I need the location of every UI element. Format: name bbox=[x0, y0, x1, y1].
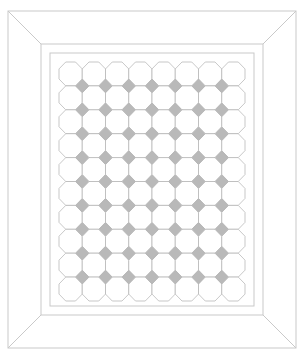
octagon-tile bbox=[175, 134, 198, 158]
octagon-tile bbox=[59, 229, 82, 253]
octagon-tile bbox=[82, 229, 105, 253]
octagon-tile bbox=[175, 229, 198, 253]
octagon-tile bbox=[82, 277, 105, 301]
octagon-tile bbox=[175, 205, 198, 229]
octagon-tile bbox=[59, 134, 82, 158]
octagon-tile bbox=[222, 110, 245, 134]
octagon-tile bbox=[82, 253, 105, 277]
octagon-tile bbox=[199, 253, 222, 277]
octagon-tile bbox=[106, 182, 129, 206]
octagon-tile bbox=[152, 62, 175, 86]
octagon-tile bbox=[59, 205, 82, 229]
octagon-tile bbox=[222, 205, 245, 229]
octagon-tile bbox=[222, 229, 245, 253]
octagon-tile bbox=[175, 110, 198, 134]
octagon-tile bbox=[199, 182, 222, 206]
octagon-tile bbox=[199, 229, 222, 253]
octagon-tile bbox=[59, 62, 82, 86]
octagon-tile bbox=[152, 205, 175, 229]
octagon-tile bbox=[129, 182, 152, 206]
octagon-tile bbox=[199, 86, 222, 110]
octagon-tile bbox=[152, 182, 175, 206]
octagon-tile bbox=[59, 253, 82, 277]
octagon-tile bbox=[222, 277, 245, 301]
octagon-tile bbox=[82, 62, 105, 86]
octagon-tile bbox=[152, 253, 175, 277]
octagon-tile bbox=[129, 158, 152, 182]
octagon-tile bbox=[152, 158, 175, 182]
tile-panel-canvas bbox=[0, 0, 303, 358]
octagon-tile bbox=[152, 229, 175, 253]
octagon-tile bbox=[199, 205, 222, 229]
octagon-tile bbox=[222, 253, 245, 277]
octagon-tile bbox=[106, 158, 129, 182]
octagon-tile bbox=[59, 182, 82, 206]
octagon-tile bbox=[129, 253, 152, 277]
octagon-tile bbox=[175, 253, 198, 277]
octagon-tile bbox=[106, 110, 129, 134]
octagon-tile bbox=[222, 158, 245, 182]
octagon-tile bbox=[59, 277, 82, 301]
octagon-tile bbox=[82, 134, 105, 158]
octagon-tile bbox=[106, 253, 129, 277]
octagon-tile bbox=[106, 86, 129, 110]
octagon-tile bbox=[106, 134, 129, 158]
octagon-tile bbox=[152, 134, 175, 158]
octagon-tile bbox=[199, 62, 222, 86]
octagon-tile bbox=[129, 62, 152, 86]
tile-panel-artwork bbox=[0, 0, 303, 358]
octagon-tile bbox=[199, 277, 222, 301]
octagon-tile bbox=[222, 62, 245, 86]
octagon-tile bbox=[152, 110, 175, 134]
octagon-tile bbox=[59, 110, 82, 134]
octagon-tile bbox=[82, 158, 105, 182]
octagon-tile bbox=[199, 110, 222, 134]
octagon-tile bbox=[106, 229, 129, 253]
octagon-tile bbox=[129, 134, 152, 158]
octagon-tile bbox=[106, 277, 129, 301]
octagon-tile bbox=[59, 86, 82, 110]
octagon-tile bbox=[175, 182, 198, 206]
octagon-tile bbox=[82, 205, 105, 229]
octagon-tile bbox=[106, 62, 129, 86]
octagon-tile bbox=[59, 158, 82, 182]
octagon-tile bbox=[175, 86, 198, 110]
octagon-tile bbox=[106, 205, 129, 229]
octagon-tile bbox=[129, 277, 152, 301]
octagon-tile bbox=[222, 134, 245, 158]
octagon-tile bbox=[175, 62, 198, 86]
octagon-tile bbox=[82, 86, 105, 110]
tile-field bbox=[59, 62, 245, 301]
octagon-tile bbox=[199, 134, 222, 158]
octagon-tile bbox=[129, 86, 152, 110]
octagon-tile bbox=[129, 110, 152, 134]
octagon-tile bbox=[175, 158, 198, 182]
octagon-tile bbox=[152, 277, 175, 301]
octagon-tile bbox=[222, 86, 245, 110]
octagon-tile bbox=[222, 182, 245, 206]
octagon-tile bbox=[129, 229, 152, 253]
octagon-tile bbox=[199, 158, 222, 182]
octagon-tile bbox=[175, 277, 198, 301]
octagon-tile bbox=[129, 205, 152, 229]
octagon-tile bbox=[82, 182, 105, 206]
octagon-tile bbox=[82, 110, 105, 134]
octagon-tile bbox=[152, 86, 175, 110]
